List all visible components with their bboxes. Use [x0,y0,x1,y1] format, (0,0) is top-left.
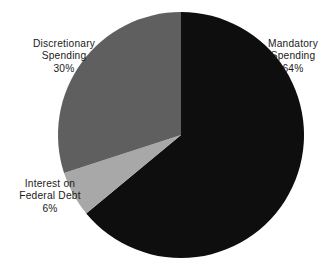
pie-label-mandatory-value: 64% [252,63,334,75]
pie-label-interest-line2: Federal Debt [6,190,94,202]
pie-label-interest-line1: Interest on [6,178,94,190]
pie-chart: Mandatory Spending 64% Discretionary Spe… [0,0,335,271]
pie-label-discretionary-spending: Discretionary Spending 30% [18,38,110,75]
pie-label-discretionary-value: 30% [18,63,110,75]
pie-label-discretionary-line2: Spending [18,50,110,62]
pie-label-mandatory-spending: Mandatory Spending 64% [252,38,334,75]
pie-label-interest-value: 6% [6,203,94,215]
pie-label-interest-on-federal-debt: Interest on Federal Debt 6% [6,178,94,215]
pie-label-discretionary-line1: Discretionary [18,38,110,50]
pie-label-mandatory-line2: Spending [252,50,334,62]
pie-label-mandatory-line1: Mandatory [252,38,334,50]
